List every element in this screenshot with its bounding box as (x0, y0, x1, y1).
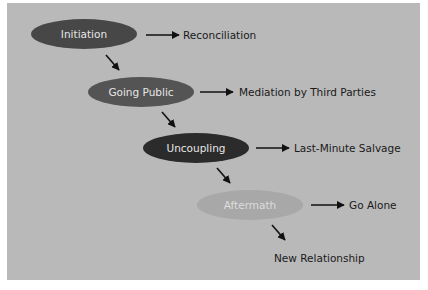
outcome-mediation: Mediation by Third Parties (239, 86, 376, 98)
stage-label: Initiation (61, 28, 107, 40)
outcome-go-alone: Go Alone (349, 199, 397, 211)
stage-aftermath: Aftermath (197, 190, 303, 220)
outcome-reconciliation: Reconciliation (183, 29, 256, 41)
stage-flow-diagram: Initiation Reconciliation Going Public M… (0, 0, 428, 290)
stage-label: Aftermath (224, 199, 276, 211)
arrow-aftermath-to-new-relationship (272, 225, 285, 240)
stage-label: Going Public (108, 86, 173, 98)
stage-going-public: Going Public (88, 77, 194, 107)
arrow-going-public-to-uncoupling (162, 112, 175, 127)
stage-initiation: Initiation (31, 19, 137, 49)
outcome-new-relationship: New Relationship (274, 252, 365, 264)
stage-uncoupling: Uncoupling (143, 133, 249, 163)
stage-label: Uncoupling (166, 142, 225, 154)
arrow-initiation-to-going-public (106, 55, 119, 70)
arrow-uncoupling-to-aftermath (217, 168, 230, 183)
outcome-last-minute-salvage: Last-Minute Salvage (294, 142, 401, 154)
